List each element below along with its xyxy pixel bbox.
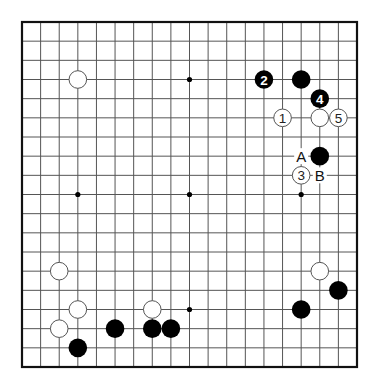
black-stone bbox=[106, 319, 125, 338]
move-number: 2 bbox=[260, 73, 268, 88]
move-number: 3 bbox=[297, 168, 305, 183]
white-stone bbox=[69, 71, 87, 89]
white-stone bbox=[50, 320, 68, 338]
svg-text:A: A bbox=[296, 148, 306, 165]
move-number: 1 bbox=[279, 111, 287, 126]
black-stone bbox=[329, 281, 348, 300]
white-stone-1: 1 bbox=[274, 109, 292, 127]
white-stone-5: 5 bbox=[330, 109, 348, 127]
black-stone bbox=[162, 319, 181, 338]
star-point-icon bbox=[187, 192, 192, 197]
black-stone bbox=[69, 339, 88, 358]
white-stone bbox=[69, 301, 87, 319]
star-point-icon bbox=[75, 192, 80, 197]
black-stone-2: 2 bbox=[255, 70, 274, 89]
point-label-a: A bbox=[294, 148, 308, 165]
white-stone bbox=[50, 262, 68, 280]
black-stone bbox=[143, 319, 162, 338]
go-board: AB 24153 bbox=[0, 0, 377, 391]
svg-text:B: B bbox=[315, 167, 325, 184]
star-point-icon bbox=[187, 77, 192, 82]
black-stone bbox=[292, 300, 311, 319]
white-stone bbox=[311, 109, 329, 127]
white-stone bbox=[143, 301, 161, 319]
black-stone bbox=[292, 70, 311, 89]
star-point-icon bbox=[299, 192, 304, 197]
move-number: 5 bbox=[335, 111, 343, 126]
black-stone-4: 4 bbox=[310, 89, 329, 108]
move-number: 4 bbox=[316, 92, 324, 107]
star-point-icon bbox=[187, 307, 192, 312]
white-stone bbox=[311, 262, 329, 280]
point-label-b: B bbox=[313, 167, 327, 184]
black-stone bbox=[310, 147, 329, 166]
white-stone-3: 3 bbox=[292, 167, 310, 185]
